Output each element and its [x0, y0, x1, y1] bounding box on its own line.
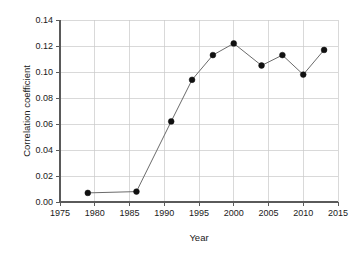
x-axis-title: Year: [189, 232, 208, 243]
y-tick-label: 0.10: [35, 67, 53, 77]
x-tick-label: 2015: [328, 208, 348, 218]
data-point-marker: [259, 63, 265, 69]
data-point-marker: [134, 189, 140, 195]
data-point-marker: [231, 41, 237, 47]
x-tick-label: 1975: [50, 208, 70, 218]
data-point-marker: [168, 119, 174, 125]
y-axis-title: Correlation coefficient: [21, 65, 32, 157]
x-tick-label: 1980: [85, 208, 105, 218]
data-point-marker: [280, 52, 286, 58]
data-point-marker: [85, 190, 91, 196]
x-tick-labels-group: 197519801985199019952000200520102015: [50, 208, 348, 218]
x-tick-label: 1990: [154, 208, 174, 218]
x-tick-label: 2000: [224, 208, 244, 218]
x-tick-label: 2010: [293, 208, 313, 218]
y-tick-label: 0.00: [35, 197, 53, 207]
y-tick-label: 0.02: [35, 171, 53, 181]
y-tick-label: 0.04: [35, 145, 53, 155]
correlation-coefficient-line-chart: 197519801985199019952000200520102015 0.0…: [0, 0, 357, 258]
x-tick-label: 1985: [119, 208, 139, 218]
x-tick-label: 2005: [258, 208, 278, 218]
y-tick-label: 0.06: [35, 119, 53, 129]
chart-figure: 197519801985199019952000200520102015 0.0…: [0, 0, 357, 258]
data-point-marker: [189, 77, 195, 83]
y-tick-label: 0.08: [35, 93, 53, 103]
data-point-marker: [321, 47, 327, 53]
y-tick-label: 0.14: [35, 15, 53, 25]
y-tick-label: 0.12: [35, 41, 53, 51]
data-point-marker: [210, 52, 216, 58]
data-point-marker: [300, 72, 306, 78]
x-tick-label: 1995: [189, 208, 209, 218]
